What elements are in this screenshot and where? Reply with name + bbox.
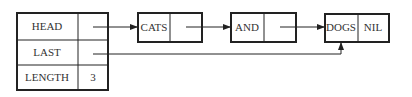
last-label: LAST [33, 46, 61, 58]
node-data: CATS [141, 21, 168, 33]
header-record: HEAD LAST LENGTH 3 [17, 13, 108, 90]
head-label: HEAD [32, 20, 63, 32]
linked-list-diagram: HEAD LAST LENGTH 3 CATS AND DOGS NIL [0, 0, 412, 97]
node-dogs: DOGS NIL [325, 14, 389, 42]
node-data: DOGS [326, 21, 356, 33]
node-next-nil: NIL [364, 21, 383, 33]
node-data: AND [235, 21, 259, 33]
arrow-last-to-dogs [93, 43, 341, 54]
length-value: 3 [90, 71, 96, 83]
length-label: LENGTH [25, 71, 69, 83]
